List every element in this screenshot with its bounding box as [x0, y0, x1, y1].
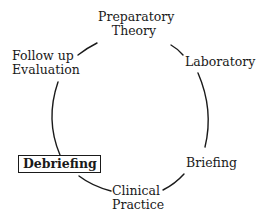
node-follow-up-evaluation: Follow up Evaluation: [12, 49, 80, 77]
arc-preparatory-to-laboratory: [171, 45, 183, 55]
node-briefing-line1: Briefing: [186, 156, 237, 170]
arc-briefing-to-clinical: [163, 174, 184, 190]
node-preparatory-theory-line2: Theory: [98, 24, 170, 38]
node-clinical-practice-line1: Clinical: [112, 184, 164, 198]
arc-debriefing-to-followup: [52, 82, 60, 155]
node-debriefing: Debriefing: [18, 155, 101, 173]
arc-followup-to-preparatory: [78, 43, 97, 55]
node-clinical-practice: Clinical Practice: [112, 184, 164, 212]
node-follow-up-evaluation-line2: Evaluation: [12, 63, 80, 77]
node-briefing: Briefing: [186, 156, 237, 170]
node-debriefing-line1: Debriefing: [23, 157, 97, 171]
node-preparatory-theory-line1: Preparatory: [98, 10, 170, 24]
node-preparatory-theory: Preparatory Theory: [98, 10, 170, 38]
node-laboratory-line1: Laboratory: [185, 55, 255, 69]
arc-clinical-to-debriefing: [79, 176, 111, 191]
node-follow-up-evaluation-line1: Follow up: [12, 49, 80, 63]
node-clinical-practice-line2: Practice: [112, 198, 164, 212]
node-laboratory: Laboratory: [185, 55, 255, 69]
arc-laboratory-to-briefing: [198, 73, 208, 147]
